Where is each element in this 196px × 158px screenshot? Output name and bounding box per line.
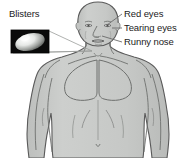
anatomy-callout-diagram: Blisters Red eyes Tearing eyes Runny nos… <box>0 0 196 158</box>
blister-photo-inset <box>11 30 49 54</box>
callout-label-runny-nose: Runny nose <box>124 37 174 47</box>
callout-label-red-eyes: Red eyes <box>124 9 163 19</box>
torso-group <box>27 38 169 158</box>
callout-label-blisters: Blisters <box>9 9 39 19</box>
left-pupil <box>87 25 89 27</box>
callout-label-tearing-eyes: Tearing eyes <box>124 23 177 33</box>
